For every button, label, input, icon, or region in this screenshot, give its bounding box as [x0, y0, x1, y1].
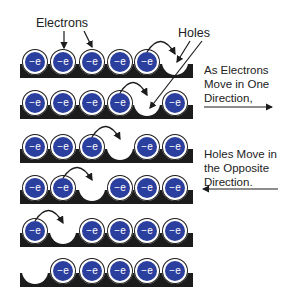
arrows-overlay [0, 0, 295, 293]
holes-pointer-arrows [150, 41, 202, 108]
hop-arrow-icon [35, 210, 63, 223]
electrons-pointer-arrows [64, 31, 92, 48]
hop-arrow-icon [63, 167, 92, 180]
hop-arrow-icon [147, 41, 175, 54]
semiconductor-hole-diagram: Electrons Holes As Electrons Move in One… [0, 0, 295, 293]
hop-arrow-icon [120, 82, 147, 95]
hop-arrow-icon [92, 126, 120, 139]
